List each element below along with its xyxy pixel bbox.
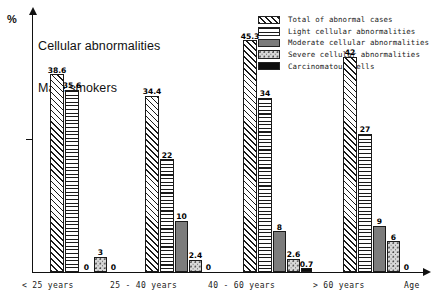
bar-value-label: 6 — [391, 233, 396, 242]
bar-value-label: 0 — [404, 263, 409, 272]
bar-value-label: 3 — [98, 248, 103, 257]
bar[interactable]: 10 — [175, 221, 188, 272]
bar-value-label: 38.6 — [48, 66, 67, 75]
bar[interactable]: 27 — [358, 134, 372, 272]
x-axis-title: Age — [404, 281, 420, 290]
bar[interactable]: 42 — [343, 57, 357, 272]
bar-value-label: 9 — [377, 217, 382, 226]
y-axis-unit-label: % — [7, 14, 17, 25]
x-axis-category-label: > 60 years — [313, 281, 365, 290]
bar-value-label: 10 — [176, 212, 187, 221]
bar-value-label: 0 — [206, 263, 211, 272]
bar-value-label: 0 — [84, 263, 89, 272]
bar[interactable]: 34.4 — [145, 96, 159, 272]
bar-value-label: 34 — [260, 89, 271, 98]
bar[interactable]: 35.6 — [65, 90, 79, 272]
bar[interactable]: 8 — [273, 231, 286, 272]
bar-value-label: 42 — [345, 48, 356, 57]
bar-value-label: 45.3 — [241, 32, 260, 41]
bar[interactable]: 9 — [373, 226, 386, 272]
bar-value-label: 22 — [162, 151, 173, 160]
bar[interactable]: 0.7 — [301, 268, 312, 272]
bar[interactable]: 2.4 — [189, 260, 202, 272]
plot-area: 38.635.603034.422102.4045.33482.60.74227… — [32, 14, 424, 272]
bar[interactable]: 3 — [94, 257, 107, 272]
x-axis-category-label: 40 - 60 years — [208, 281, 275, 290]
bar[interactable]: 22 — [160, 159, 174, 272]
bar[interactable]: 45.3 — [243, 40, 257, 272]
x-axis-arrow-icon — [423, 268, 431, 276]
bar-value-label: 34.4 — [143, 87, 162, 96]
bar-value-label: 0.7 — [300, 260, 313, 269]
bar-value-label: 2.4 — [189, 251, 202, 260]
bar-value-label: 27 — [360, 125, 371, 134]
bar[interactable]: 2.6 — [287, 259, 300, 272]
bar-value-label: 2.6 — [287, 250, 300, 259]
bar[interactable]: 38.6 — [50, 74, 64, 272]
bar-value-label: 0 — [111, 263, 116, 272]
bar[interactable]: 34 — [258, 98, 272, 272]
bar[interactable]: 6 — [387, 241, 400, 272]
bar-value-label: 35.6 — [63, 81, 82, 90]
x-axis-category-label: < 25 years — [22, 281, 74, 290]
bar-value-label: 8 — [277, 223, 282, 232]
x-axis-category-label: 25 - 40 years — [110, 281, 177, 290]
